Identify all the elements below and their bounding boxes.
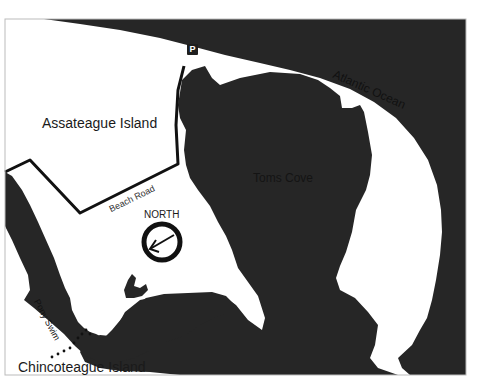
label-chincoteague-island: Chincoteague Island xyxy=(18,360,146,374)
label-north: NORTH xyxy=(144,210,179,220)
map: P Assateague Island Atlantic Ocean Toms … xyxy=(0,0,488,387)
map-canvas xyxy=(0,0,488,387)
label-assateague-island: Assateague Island xyxy=(42,116,157,130)
parking-icon: P xyxy=(187,44,198,55)
label-toms-cove: Toms Cove xyxy=(253,172,313,184)
compass-north-arrow-icon xyxy=(144,224,180,260)
